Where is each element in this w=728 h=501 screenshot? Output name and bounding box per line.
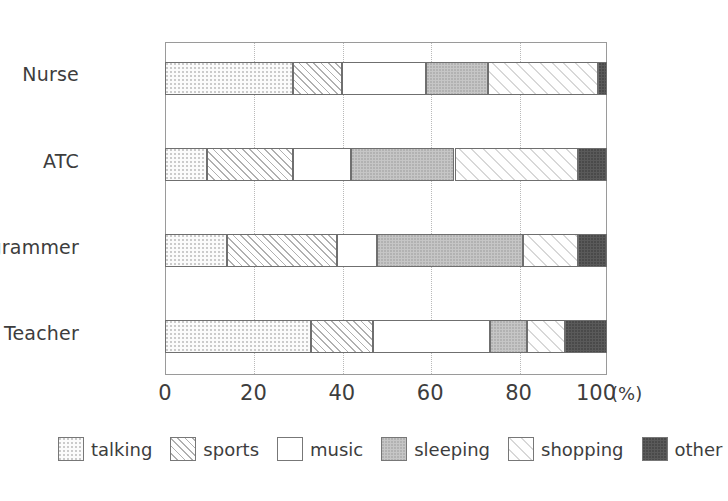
bar-segment-nurse-sleeping [426, 62, 488, 95]
bar-segment-atc-sports [207, 148, 293, 181]
legend-swatch-talking [58, 437, 84, 461]
bar-segment-teacher-sleeping [490, 320, 528, 353]
bar-segment-teacher-sports [311, 320, 373, 353]
bar-segment-programmer-other [578, 234, 607, 267]
legend-label-other: other [675, 439, 723, 460]
bar-segment-atc-talking [165, 148, 207, 181]
legend-swatch-shopping [508, 437, 534, 461]
bar-segment-programmer-talking [165, 234, 227, 267]
category-label-atc: ATC [43, 150, 79, 172]
bar-segment-atc-other [578, 148, 607, 181]
xtick-0: 0 [158, 381, 171, 405]
bar-segment-teacher-shopping [527, 320, 565, 353]
category-label-programmer: Programmer [0, 236, 79, 258]
legend-swatch-other [642, 437, 668, 461]
bar-segment-programmer-music [337, 234, 377, 267]
legend-item-shopping[interactable]: shopping [508, 437, 624, 461]
bar-segment-atc-music [293, 148, 350, 181]
bar-segment-nurse-shopping [488, 62, 599, 95]
legend-item-other[interactable]: other [642, 437, 723, 461]
bar-segment-nurse-other [598, 62, 607, 95]
bar-segment-programmer-sports [227, 234, 338, 267]
category-label-nurse: Nurse [22, 63, 79, 85]
legend-swatch-sleeping [381, 437, 407, 461]
legend-label-sports: sports [203, 439, 259, 460]
bar-segment-atc-shopping [455, 148, 579, 181]
legend-label-talking: talking [91, 439, 152, 460]
bar-segment-teacher-talking [165, 320, 311, 353]
xtick-80: 80 [505, 381, 532, 405]
legend-swatch-music [277, 437, 303, 461]
legend-item-music[interactable]: music [277, 437, 363, 461]
legend-label-music: music [310, 439, 363, 460]
category-label-teacher: Teacher [4, 322, 79, 344]
bar-segment-nurse-music [342, 62, 426, 95]
bar-segment-programmer-shopping [523, 234, 578, 267]
xtick-60: 60 [417, 381, 444, 405]
legend-label-sleeping: sleeping [414, 439, 490, 460]
legend: talkingsportsmusicsleepingshoppingother [58, 437, 728, 461]
legend-item-sports[interactable]: sports [170, 437, 259, 461]
xtick-40: 40 [328, 381, 355, 405]
legend-swatch-sports [170, 437, 196, 461]
legend-item-talking[interactable]: talking [58, 437, 152, 461]
bar-segment-nurse-talking [165, 62, 293, 95]
bar-segment-teacher-other [565, 320, 607, 353]
x-axis-unit-label: (%) [611, 383, 642, 404]
bar-segment-nurse-sports [293, 62, 342, 95]
bar-segment-atc-sleeping [351, 148, 455, 181]
bar-segment-teacher-music [373, 320, 490, 353]
legend-item-sleeping[interactable]: sleeping [381, 437, 490, 461]
bar-segment-programmer-sleeping [377, 234, 523, 267]
xtick-20: 20 [240, 381, 267, 405]
legend-label-shopping: shopping [541, 439, 624, 460]
